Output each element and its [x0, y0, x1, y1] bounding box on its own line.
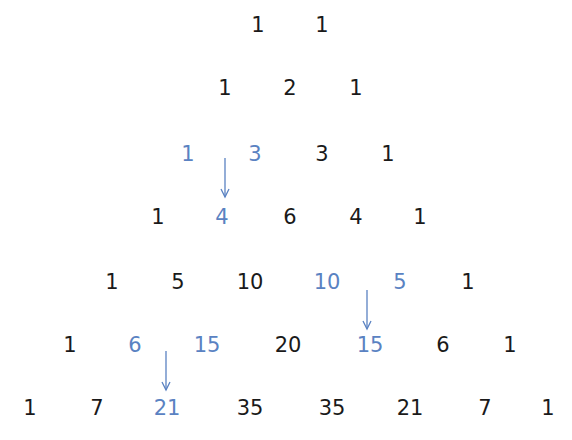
number: 20 — [275, 333, 302, 357]
number: 6 — [283, 205, 296, 229]
number: 1 — [251, 13, 264, 37]
number: 3 — [315, 142, 328, 166]
number: 1 — [381, 142, 394, 166]
number: 35 — [319, 396, 346, 420]
highlighted-number: 10 — [314, 270, 341, 294]
number: 1 — [413, 205, 426, 229]
highlighted-number: 21 — [154, 396, 181, 420]
number: 1 — [503, 333, 516, 357]
number: 10 — [237, 270, 264, 294]
number: 5 — [171, 270, 184, 294]
number: 2 — [283, 76, 296, 100]
number: 1 — [349, 76, 362, 100]
number: 7 — [90, 396, 103, 420]
number: 1 — [541, 396, 554, 420]
highlighted-number: 15 — [194, 333, 221, 357]
highlighted-number: 3 — [248, 142, 261, 166]
number: 1 — [63, 333, 76, 357]
number: 7 — [478, 396, 491, 420]
pascal-triangle: 1112113311464115101051161520156117213535… — [0, 0, 572, 440]
highlighted-number: 5 — [393, 270, 406, 294]
number: 6 — [436, 333, 449, 357]
down-arrow-icon — [162, 351, 170, 390]
number: 1 — [315, 13, 328, 37]
highlighted-number: 4 — [215, 205, 228, 229]
number: 1 — [461, 270, 474, 294]
number: 1 — [105, 270, 118, 294]
number: 35 — [237, 396, 264, 420]
down-arrow-icon — [363, 290, 371, 329]
highlighted-number: 1 — [181, 142, 194, 166]
highlighted-number: 6 — [128, 333, 141, 357]
number: 1 — [23, 396, 36, 420]
number: 4 — [349, 205, 362, 229]
number: 1 — [151, 205, 164, 229]
number: 21 — [397, 396, 424, 420]
down-arrow-icon — [221, 158, 229, 197]
number: 1 — [218, 76, 231, 100]
highlighted-number: 15 — [357, 333, 384, 357]
